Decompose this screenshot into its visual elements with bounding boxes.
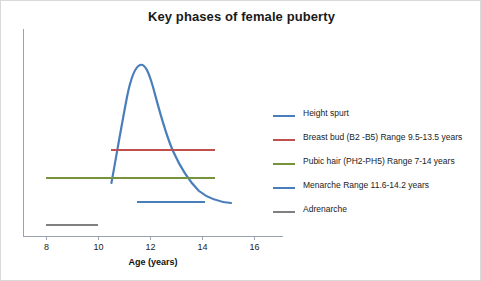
legend-item-height-spurt: Height spurt bbox=[273, 105, 478, 129]
legend-swatch-icon bbox=[273, 211, 295, 213]
legend-label: Menarche Range 11.6-14.2 years bbox=[303, 180, 429, 190]
legend-swatch-icon bbox=[273, 139, 295, 141]
x-tick-16 bbox=[254, 236, 255, 240]
x-tick-label-1: 10 bbox=[88, 242, 108, 252]
x-tick-label-3: 14 bbox=[192, 242, 212, 252]
legend-swatch-icon bbox=[273, 163, 295, 165]
legend-label: Pubic hair (PH2-PH5) Range 7-14 years bbox=[303, 156, 455, 166]
legend-label: Breast bud (B2 -B5) Range 9.5-13.5 years bbox=[303, 132, 462, 142]
chart-title: Key phases of female puberty bbox=[1, 9, 481, 24]
legend-label: Adrenarche bbox=[303, 204, 347, 214]
x-tick-14 bbox=[202, 236, 203, 240]
legend-item-breast-bud: Breast bud (B2 -B5) Range 9.5-13.5 years bbox=[273, 129, 478, 153]
x-tick-label-2: 12 bbox=[140, 242, 160, 252]
height-spurt-curve bbox=[23, 29, 283, 237]
legend-item-adrenarche: Adrenarche bbox=[273, 201, 478, 225]
chart-page: Key phases of female puberty 8 10 12 14 … bbox=[0, 0, 481, 281]
x-tick-label-0: 8 bbox=[36, 242, 56, 252]
x-tick-10 bbox=[98, 236, 99, 240]
legend-label: Height spurt bbox=[303, 108, 349, 118]
plot-area: 8 10 12 14 16 bbox=[23, 29, 283, 237]
legend-item-menarche: Menarche Range 11.6-14.2 years bbox=[273, 177, 478, 201]
x-tick-12 bbox=[150, 236, 151, 240]
phase-bar-breast-bud bbox=[111, 149, 215, 151]
x-tick-8 bbox=[46, 236, 47, 240]
chart-legend: Height spurt Breast bud (B2 -B5) Range 9… bbox=[273, 105, 478, 225]
legend-swatch-icon bbox=[273, 115, 295, 117]
legend-item-pubic-hair: Pubic hair (PH2-PH5) Range 7-14 years bbox=[273, 153, 478, 177]
phase-bar-pubic-hair bbox=[46, 177, 215, 179]
x-tick-label-4: 16 bbox=[244, 242, 264, 252]
phase-bar-adrenarche bbox=[46, 224, 98, 226]
phase-bar-menarche bbox=[137, 201, 205, 203]
x-axis-title: Age (years) bbox=[23, 257, 283, 267]
legend-swatch-icon bbox=[273, 187, 295, 189]
